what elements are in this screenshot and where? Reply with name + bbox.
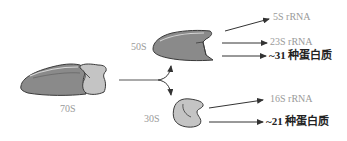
component-5s-rrna: 5S rRNA [273,12,311,22]
ribosome-70s-label: 70S [60,104,76,114]
component-30s-proteins: ~21 种蛋白质 [266,116,329,127]
small-subunit-30s-shape [173,99,203,127]
component-16s-rrna: 16S rRNA [270,94,313,104]
ribosome-70s-shape [21,64,106,95]
large-subunit-50s-shape [153,30,213,60]
large-subunit-50s-label: 50S [131,42,147,52]
component-23s-rrna: 23S rRNA [270,37,313,47]
small-subunit-30s-label: 30S [144,114,160,124]
large-subunit-arrows [222,19,269,56]
small-subunit-arrows [209,100,263,122]
dissociation-arrow [119,66,171,95]
component-50s-proteins: ~31 种蛋白质 [269,50,332,61]
